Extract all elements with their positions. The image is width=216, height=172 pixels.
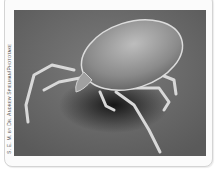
photo-credit: S. E. M. by Dr. Andrew Spielman/Phototak… <box>5 44 13 154</box>
tick-illustration <box>14 10 206 156</box>
tick-micrograph-photo <box>14 10 206 156</box>
